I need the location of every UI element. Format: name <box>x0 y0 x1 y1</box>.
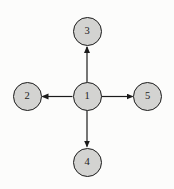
node-3: 3 <box>73 17 102 46</box>
node-2-label: 2 <box>24 91 29 102</box>
node-4: 4 <box>73 148 102 177</box>
node-1-label: 1 <box>84 91 89 102</box>
node-5: 5 <box>133 82 162 111</box>
node-5-label: 5 <box>145 91 150 102</box>
node-3-label: 3 <box>84 26 89 37</box>
node-1: 1 <box>73 82 102 111</box>
node-4-label: 4 <box>84 157 89 168</box>
diagram-canvas: 1 2 3 4 5 <box>0 0 174 189</box>
node-2: 2 <box>13 82 42 111</box>
